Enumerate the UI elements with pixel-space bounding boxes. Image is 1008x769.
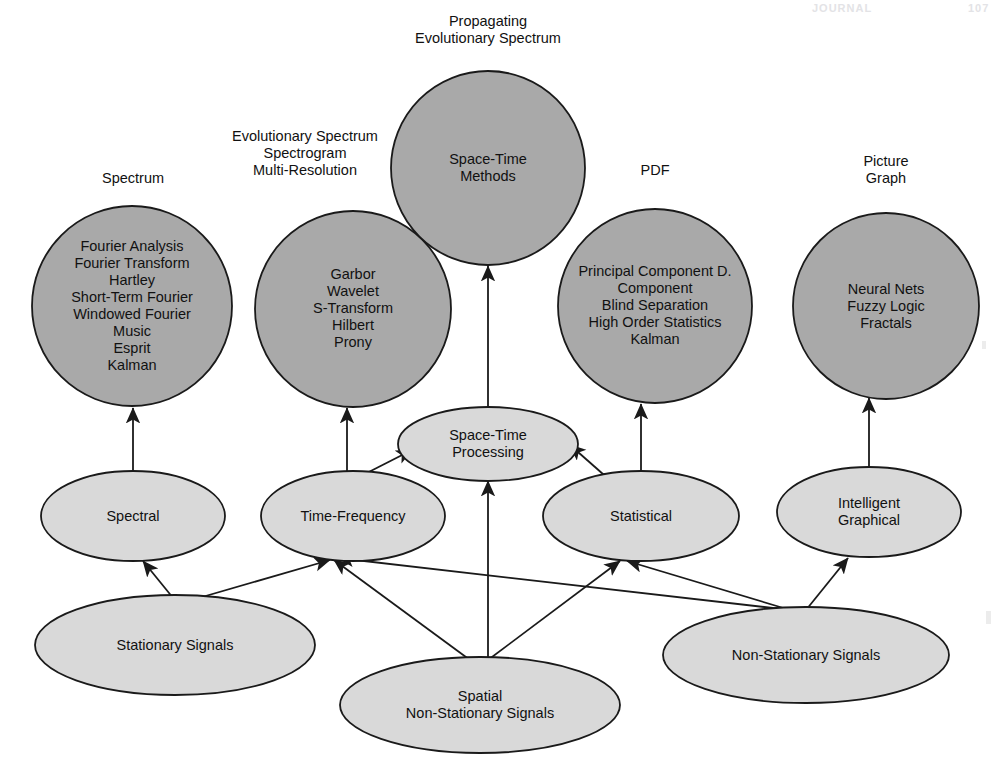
edge-non-stationary-to-statistical [627, 561, 790, 610]
spatial-non-stationary-signals-source[interactable] [340, 657, 620, 753]
space-time-processing-category[interactable] [398, 407, 578, 481]
edge-spatial-to-time-frequency [334, 560, 470, 660]
node-layer [32, 71, 979, 753]
intelligent-graphical-methods-circle[interactable] [793, 213, 979, 399]
edge-spatial-to-statistical [488, 561, 620, 660]
time-frequency-methods-circle[interactable] [255, 211, 451, 407]
time-frequency-category[interactable] [261, 471, 445, 561]
spectrum-methods-circle[interactable] [32, 206, 232, 406]
non-stationary-signals-source[interactable] [663, 607, 949, 703]
statistical-category[interactable] [543, 471, 739, 561]
pdf-methods-circle[interactable] [558, 209, 752, 403]
intelligent-graphical-category[interactable] [777, 467, 961, 557]
edge-non-stationary-to-intelligent [806, 558, 848, 610]
diagram-svg [0, 0, 1008, 769]
space-time-methods-circle[interactable] [391, 71, 585, 265]
spectral-category[interactable] [41, 471, 225, 561]
stationary-signals-source[interactable] [35, 595, 315, 695]
diagram-canvas: JOURNAL 107 Fourier Analysis Fourier Tra… [0, 0, 1008, 769]
